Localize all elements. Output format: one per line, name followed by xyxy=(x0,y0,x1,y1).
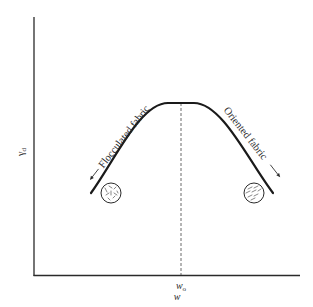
svg-text:γd: γd xyxy=(15,148,28,157)
compaction-diagram: Flocculated fabric Oriented fabric xyxy=(0,0,313,307)
flocculated-fabric-label: Flocculated fabric xyxy=(96,103,152,170)
flocculated-fabric-annotation: Flocculated fabric xyxy=(86,103,152,183)
x-tick-label-subscript: o xyxy=(183,285,187,293)
oriented-particles-icon xyxy=(244,183,264,203)
x-axis-label: w xyxy=(174,291,181,302)
y-axis-label-subscript: d xyxy=(20,148,28,152)
oriented-fabric-annotation: Oriented fabric xyxy=(222,105,285,181)
right-arrow-shaft xyxy=(270,165,277,174)
y-axis-label: γd xyxy=(15,148,28,157)
flocculated-particles-icon xyxy=(101,183,121,203)
